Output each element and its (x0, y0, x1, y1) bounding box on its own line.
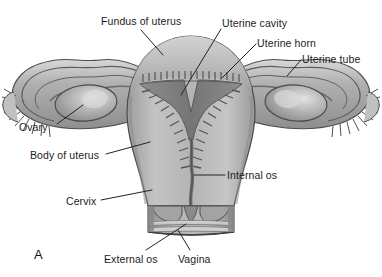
label-cervix: Cervix (66, 196, 96, 207)
label-uterine-cavity: Uterine cavity (222, 18, 287, 29)
label-vagina: Vagina (178, 254, 211, 265)
label-external-os: External os (104, 254, 158, 265)
panel-letter: A (34, 248, 43, 261)
label-internal-os: Internal os (227, 170, 277, 181)
uterus-diagram-artwork (0, 0, 382, 277)
cervix-and-vagina (148, 206, 234, 235)
anatomy-figure: Fundus of uterus Uterine cavity Uterine … (0, 0, 382, 277)
label-fundus-of-uterus: Fundus of uterus (101, 16, 181, 27)
label-ovary: Ovary (19, 122, 48, 133)
label-body-of-uterus: Body of uterus (30, 150, 99, 161)
label-uterine-horn: Uterine horn (257, 38, 316, 49)
label-uterine-tube: Uterine tube (302, 54, 360, 65)
